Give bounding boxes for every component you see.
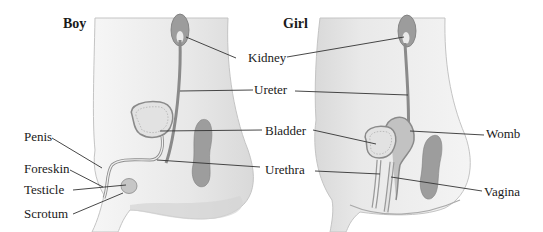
anatomy-illustration	[0, 0, 543, 232]
urinary-system-diagram: Boy Girl Kidney Ureter Bladder Urethra P…	[0, 0, 543, 232]
label-kidney: Kidney	[248, 51, 286, 64]
label-testicle: Testicle	[24, 183, 64, 196]
label-penis: Penis	[24, 130, 52, 143]
label-womb: Womb	[486, 127, 520, 140]
label-ureter: Ureter	[254, 83, 287, 96]
girl-torso	[315, 15, 470, 232]
boy-torso	[92, 14, 253, 232]
label-vagina: Vagina	[484, 185, 520, 198]
boy-rectum	[192, 119, 212, 186]
label-bladder: Bladder	[265, 124, 306, 137]
boy-testicle	[121, 179, 137, 194]
boy-panel-title: Boy	[63, 17, 86, 31]
label-urethra: Urethra	[265, 163, 305, 176]
girl-panel-title: Girl	[283, 17, 308, 31]
label-scrotum: Scrotum	[24, 207, 68, 220]
label-foreskin: Foreskin	[24, 162, 70, 175]
